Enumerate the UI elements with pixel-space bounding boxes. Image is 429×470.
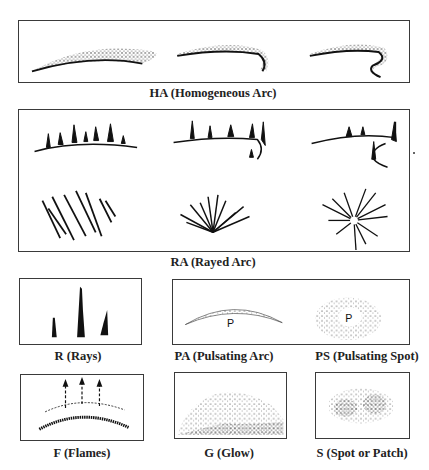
glow-illustration <box>175 373 286 438</box>
panel-glow <box>174 372 287 439</box>
label-homogeneous-arc: HA (Homogeneous Arc) <box>150 86 277 101</box>
label-flames: F (Flames) <box>54 446 111 461</box>
spot-illustration <box>316 373 409 438</box>
pulsating-illustration: P P <box>173 280 409 344</box>
panel-rays <box>19 278 142 345</box>
flames-illustration <box>21 375 143 440</box>
panel-spot-or-patch <box>315 372 410 439</box>
rays-illustration <box>20 279 141 344</box>
label-pulsating-arc: PA (Pulsating Arc) <box>175 349 274 364</box>
label-rays: R (Rays) <box>55 349 102 364</box>
panel-flames <box>20 374 144 441</box>
homogeneous-arc-illustration <box>19 21 409 82</box>
label-spot-or-patch: S (Spot or Patch) <box>316 446 407 461</box>
ps-marker: P <box>345 312 352 324</box>
pa-marker: P <box>227 317 234 329</box>
panel-rayed-arc <box>18 109 410 252</box>
panel-homogeneous-arc <box>18 20 410 83</box>
label-pulsating-spot: PS (Pulsating Spot) <box>315 349 419 364</box>
panel-pulsating: P P <box>172 279 410 345</box>
stray-dot <box>413 152 415 154</box>
label-glow: G (Glow) <box>204 446 254 461</box>
rayed-arc-illustration <box>19 110 409 251</box>
label-rayed-arc: RA (Rayed Arc) <box>170 255 255 270</box>
